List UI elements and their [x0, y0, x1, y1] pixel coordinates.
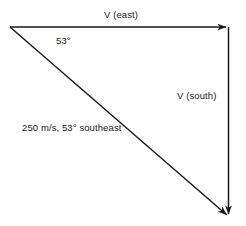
east-vector-label: V (east)	[104, 9, 138, 21]
vector-diagram-canvas	[0, 0, 246, 226]
south-vector-label: V (south)	[177, 90, 216, 102]
resultant-vector-arrow	[10, 27, 227, 215]
angle-label: 53°	[56, 35, 71, 47]
resultant-vector-label: 250 m/s, 53° southeast	[22, 122, 121, 134]
vector-diagram: V (east) 53° V (south) 250 m/s, 53° sout…	[0, 0, 246, 226]
